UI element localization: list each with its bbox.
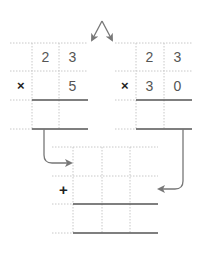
sum-plus-operator: + bbox=[59, 183, 68, 197]
right-bottom-digit-tens: 3 bbox=[136, 78, 163, 94]
right-top-digit-ones: 3 bbox=[164, 49, 191, 65]
left-top-digit-tens: 2 bbox=[32, 49, 59, 65]
right-bottom-digit-ones: 0 bbox=[164, 78, 191, 94]
right-top-digit-tens: 2 bbox=[136, 49, 163, 65]
left-rules bbox=[32, 100, 88, 129]
left-multiply-operator: × bbox=[17, 79, 25, 93]
left-top-digit-ones: 3 bbox=[59, 49, 86, 65]
right-result-arrow-icon bbox=[159, 129, 183, 189]
sum-rules bbox=[73, 204, 158, 233]
left-bottom-digit-ones: 5 bbox=[59, 78, 86, 94]
left-result-arrow-icon bbox=[44, 129, 71, 163]
diagram-canvas bbox=[0, 0, 206, 257]
right-multiply-operator: × bbox=[121, 79, 129, 93]
split-arrows-icon bbox=[92, 21, 112, 40]
